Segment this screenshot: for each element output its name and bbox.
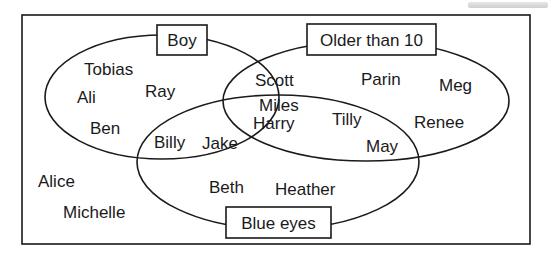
name-scott: Scott xyxy=(255,71,294,90)
name-tobias: Tobias xyxy=(84,60,133,79)
name-billy: Billy xyxy=(154,133,186,152)
name-alice: Alice xyxy=(38,172,75,191)
name-harry: Harry xyxy=(253,114,295,133)
name-ali: Ali xyxy=(77,88,96,107)
name-ben: Ben xyxy=(90,119,120,138)
blue-eyes-label: Blue eyes xyxy=(241,214,316,233)
name-tilly: Tilly xyxy=(332,110,362,129)
name-michelle: Michelle xyxy=(63,203,125,222)
boy-label-box: Boy xyxy=(157,25,207,55)
name-renee: Renee xyxy=(414,113,464,132)
name-miles: Miles xyxy=(259,96,299,115)
boy-label: Boy xyxy=(167,31,197,50)
blue-eyes-label-box: Blue eyes xyxy=(226,207,331,238)
older-label: Older than 10 xyxy=(320,31,423,50)
name-heather: Heather xyxy=(275,180,336,199)
older-label-box: Older than 10 xyxy=(307,24,436,55)
venn-diagram: Boy Older than 10 Blue eyes Tobias Ali R… xyxy=(0,0,548,256)
name-ray: Ray xyxy=(145,82,176,101)
name-beth: Beth xyxy=(209,178,244,197)
name-jake: Jake xyxy=(202,134,238,153)
name-meg: Meg xyxy=(439,76,472,95)
name-parin: Parin xyxy=(361,70,401,89)
name-may: May xyxy=(366,137,399,156)
